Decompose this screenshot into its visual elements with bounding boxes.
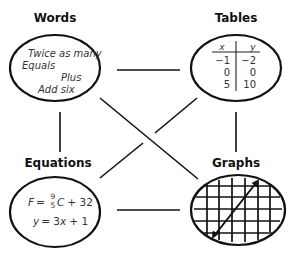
table-header-x: x <box>218 42 225 52</box>
node-equations: Equations F= 9 5 C+ 32 y= 3x+ 1 <box>10 156 100 247</box>
representations-diagram: Words Twice as many Equals Plus Add six … <box>0 0 298 259</box>
graph-grid-icon <box>194 178 282 242</box>
words-line-1: Twice as many <box>28 48 103 59</box>
table-cell-r2-y: 0 <box>250 67 256 78</box>
equations-ellipse <box>10 177 100 247</box>
words-line-3: Plus <box>61 72 81 83</box>
equation-1: F= <box>28 196 45 208</box>
table-cell-r3-y: 10 <box>243 79 256 90</box>
table-cell-r3-x: 5 <box>224 79 230 90</box>
equation-1-frac-numerator: 9 <box>51 192 56 201</box>
graphs-title: Graphs <box>212 156 260 170</box>
node-words: Words Twice as many Equals Plus Add six <box>10 11 103 101</box>
equation-2: y= 3x+ 1 <box>32 215 88 227</box>
tables-title: Tables <box>215 11 258 25</box>
connector-tables-equations-upper <box>155 98 197 133</box>
equation-1-rest: C+ 32 <box>57 196 93 208</box>
words-title: Words <box>34 11 77 25</box>
equation-1-frac-denominator: 5 <box>51 201 56 210</box>
words-line-2: Equals <box>22 60 55 71</box>
words-line-4: Add six <box>37 84 75 95</box>
table-cell-r1-y: −2 <box>241 55 256 66</box>
table-cell-r1-x: −1 <box>215 55 230 66</box>
connector-tables-equations-lower <box>100 143 143 178</box>
node-graphs: Graphs <box>191 156 285 245</box>
table-cell-r2-x: 0 <box>224 67 230 78</box>
equations-title: Equations <box>24 156 91 170</box>
table-header-y: y <box>249 42 256 52</box>
node-tables: Tables x y −1 −2 0 0 5 10 <box>191 11 281 101</box>
